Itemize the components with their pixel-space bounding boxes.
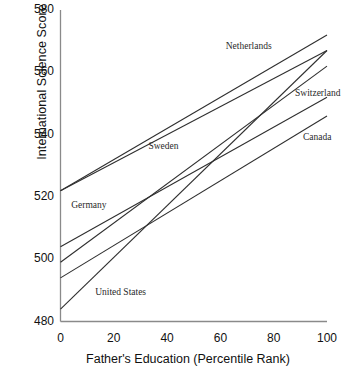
x-tick-20: 20 xyxy=(94,331,134,345)
series-line-netherlands xyxy=(61,35,328,191)
x-tick-60: 60 xyxy=(200,331,240,345)
y-tick-480: 480 xyxy=(18,314,54,328)
annotation-netherlands: Netherlands xyxy=(226,41,272,51)
x-tick-100: 100 xyxy=(307,331,347,345)
x-tick-40: 40 xyxy=(147,331,187,345)
axis-lines xyxy=(61,10,328,322)
series-line-sweden xyxy=(61,50,328,190)
y-tick-540: 540 xyxy=(18,127,54,141)
annotation-canada: Canada xyxy=(303,132,332,142)
x-tick-0: 0 xyxy=(41,331,81,345)
annotation-sweden: Sweden xyxy=(148,141,178,151)
series-line-canada xyxy=(61,116,328,278)
series-line-germany xyxy=(61,97,328,247)
annotation-germany: Germany xyxy=(71,200,106,210)
y-tick-580: 580 xyxy=(18,2,54,16)
x-axis-title: Father's Education (Percentile Rank) xyxy=(38,352,338,366)
y-tick-500: 500 xyxy=(18,251,54,265)
annotation-switzerland: Switzerland xyxy=(295,88,340,98)
y-tick-560: 560 xyxy=(18,64,54,78)
annotation-united-states: United States xyxy=(95,287,146,297)
y-axis-title: International Science Score xyxy=(35,0,51,187)
series-line-switzerland xyxy=(61,66,328,262)
series-line-united-states xyxy=(61,50,328,309)
x-tick-80: 80 xyxy=(254,331,294,345)
science-score-chart: International Science Score Father's Edu… xyxy=(0,0,347,373)
y-tick-520: 520 xyxy=(18,189,54,203)
series-lines xyxy=(61,35,328,309)
